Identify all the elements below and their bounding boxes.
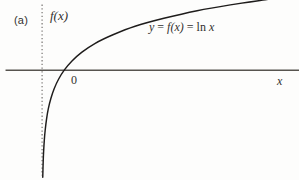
- equation-equals-2: =: [184, 20, 197, 34]
- figure-panel: (a) f(x) 0 x y = f(x) = ln x: [0, 0, 299, 180]
- x-axis-label: x: [277, 75, 282, 87]
- origin-label: 0: [71, 74, 77, 86]
- equation-ln: ln: [197, 20, 206, 34]
- curve-equation-annotation: y = f(x) = ln x: [149, 21, 214, 33]
- equation-x: x: [209, 20, 214, 34]
- equation-fx: f(x): [167, 20, 184, 34]
- equation-equals-1: =: [154, 20, 167, 34]
- y-axis-label: f(x): [50, 9, 68, 22]
- panel-label: (a): [14, 15, 28, 26]
